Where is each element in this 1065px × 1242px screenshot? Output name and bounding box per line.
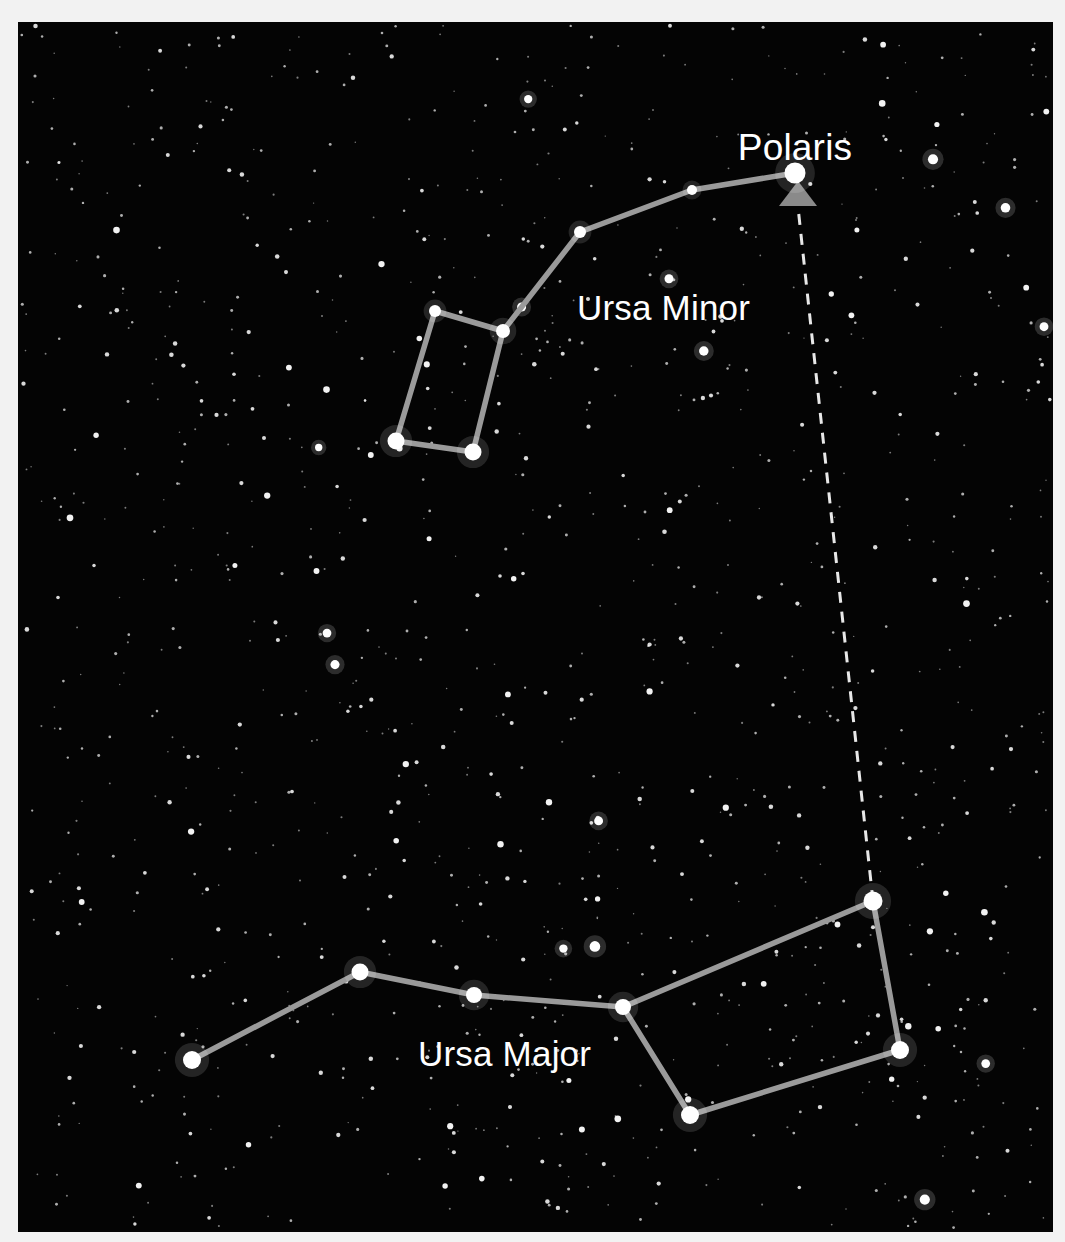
background-star xyxy=(319,1071,323,1075)
background-star xyxy=(521,572,525,576)
background-star xyxy=(544,691,548,695)
background-star xyxy=(388,953,390,955)
background-star xyxy=(202,974,206,978)
background-star xyxy=(898,45,900,47)
background-star xyxy=(166,153,170,157)
background-star xyxy=(982,1126,984,1128)
background-star xyxy=(676,227,677,228)
background-star xyxy=(82,202,84,204)
background-star xyxy=(654,644,656,646)
background-star xyxy=(810,470,813,473)
background-star xyxy=(959,666,961,668)
background-star xyxy=(294,712,297,715)
sky-canvas: PolarisUrsa MinorUrsa Major xyxy=(0,0,1065,1242)
background-star xyxy=(954,933,957,936)
background-star xyxy=(136,891,139,894)
background-star xyxy=(1013,158,1016,161)
background-star xyxy=(562,1014,564,1016)
background-star xyxy=(1034,43,1036,45)
background-star xyxy=(977,1084,979,1086)
background-star xyxy=(339,702,341,704)
background-star xyxy=(139,184,141,186)
constellation-star xyxy=(465,444,482,461)
background-star xyxy=(693,398,696,401)
background-star xyxy=(54,1032,56,1034)
background-star xyxy=(791,955,793,957)
background-star xyxy=(233,399,236,402)
background-star xyxy=(994,576,996,578)
background-star xyxy=(685,494,688,497)
background-star xyxy=(871,925,875,929)
background-star xyxy=(684,64,686,66)
background-star xyxy=(875,838,878,841)
background-star xyxy=(66,985,67,986)
background-star xyxy=(194,428,196,430)
background-star xyxy=(698,485,700,487)
background-star xyxy=(426,453,428,455)
background-star xyxy=(196,755,199,758)
background-star xyxy=(127,400,130,403)
background-star xyxy=(227,168,231,172)
background-star xyxy=(791,656,793,658)
background-star xyxy=(519,433,521,435)
background-star xyxy=(639,1218,642,1221)
background-star xyxy=(524,456,528,460)
background-star xyxy=(428,510,431,513)
background-star xyxy=(961,57,963,59)
background-star xyxy=(932,185,935,188)
background-star xyxy=(305,690,307,692)
background-star xyxy=(547,152,549,154)
background-star xyxy=(323,629,332,638)
background-star xyxy=(1032,74,1034,76)
background-star xyxy=(127,633,130,636)
background-star xyxy=(1030,321,1033,324)
background-star xyxy=(907,525,909,527)
background-star xyxy=(581,877,584,880)
background-star xyxy=(197,1028,198,1029)
background-star xyxy=(775,954,777,956)
background-star xyxy=(811,1026,813,1028)
background-star xyxy=(122,288,125,291)
background-star xyxy=(1010,518,1012,520)
background-star xyxy=(475,1128,477,1130)
background-star xyxy=(767,459,770,462)
background-star xyxy=(740,227,744,231)
background-star xyxy=(287,991,289,993)
background-star xyxy=(239,481,243,485)
background-star xyxy=(559,346,561,348)
background-star xyxy=(607,1204,609,1206)
background-star xyxy=(277,956,279,958)
background-star xyxy=(270,1136,272,1138)
background-star xyxy=(480,190,483,193)
background-star xyxy=(841,203,842,204)
background-star xyxy=(25,627,30,632)
background-star xyxy=(854,1041,857,1044)
background-star xyxy=(898,434,900,436)
background-star xyxy=(768,55,769,56)
background-star xyxy=(31,809,33,811)
background-star xyxy=(54,497,56,499)
background-star xyxy=(41,35,43,37)
background-star xyxy=(1048,398,1052,402)
background-star xyxy=(112,855,115,858)
background-star xyxy=(952,1226,955,1229)
background-star xyxy=(786,1126,788,1128)
background-star xyxy=(892,1100,894,1102)
background-star xyxy=(755,236,757,238)
background-star xyxy=(176,1162,179,1165)
background-star xyxy=(645,1025,648,1028)
background-star xyxy=(971,709,973,711)
background-star xyxy=(599,605,601,607)
background-star xyxy=(483,1129,485,1131)
background-star xyxy=(788,332,790,334)
background-star xyxy=(920,241,922,243)
background-star xyxy=(92,564,96,568)
background-star xyxy=(745,369,748,372)
background-star xyxy=(1007,952,1009,954)
background-star xyxy=(796,73,798,75)
background-star xyxy=(662,529,667,534)
background-star xyxy=(251,500,253,502)
background-star xyxy=(975,211,979,215)
background-star xyxy=(497,841,503,847)
background-star xyxy=(340,816,342,818)
